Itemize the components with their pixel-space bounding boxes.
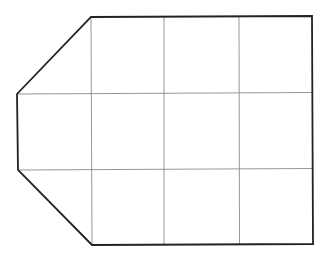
grid-vertical-1 [91, 17, 92, 245]
diagram-canvas [0, 0, 325, 259]
grid-horizontal-1 [17, 93, 313, 95]
outline-polygon [17, 16, 313, 245]
grid-horizontal-2 [18, 169, 313, 171]
grid-vertical-3 [239, 16, 240, 244]
grid-lines [17, 16, 313, 245]
